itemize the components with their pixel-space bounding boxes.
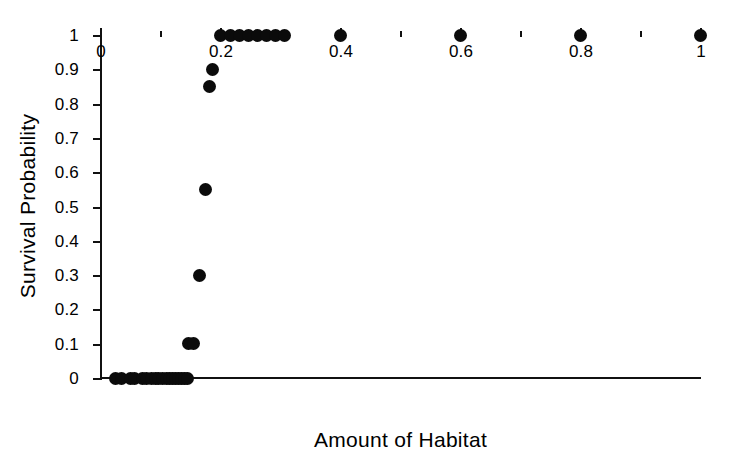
data-point [206, 63, 219, 76]
y-tick-mark: 0.4 [93, 241, 102, 243]
y-tick-mark: 0 [93, 378, 102, 380]
y-tick-label: 0.8 [55, 95, 79, 115]
y-tick-label: 0.6 [55, 163, 79, 183]
y-tick-label: 0 [69, 369, 79, 389]
y-tick-label: 0.4 [55, 232, 79, 252]
data-point [193, 269, 206, 282]
x-minor-tick-mark [640, 31, 642, 37]
y-tick-mark: 0.8 [93, 104, 102, 106]
y-tick-label: 0.1 [55, 335, 79, 355]
y-tick-mark: 0.2 [93, 309, 102, 311]
x-tick-label: 0.2 [209, 42, 233, 62]
plot-area: 00.10.20.30.40.50.60.70.80.91 00.20.40.6… [100, 35, 700, 378]
x-tick-mark: 0 [100, 28, 102, 37]
x-tick-label: 0.4 [329, 42, 353, 62]
y-tick-label: 1 [69, 26, 79, 46]
y-tick-mark: 0.6 [93, 172, 102, 174]
survival-probability-scatter-figure: 00.10.20.30.40.50.60.70.80.91 00.20.40.6… [0, 0, 737, 473]
y-tick-mark: 0.5 [93, 207, 102, 209]
data-point [454, 29, 467, 42]
data-point [334, 29, 347, 42]
data-point [694, 29, 707, 42]
x-tick-label: 0.6 [449, 42, 473, 62]
y-tick-mark: 0.3 [93, 275, 102, 277]
y-tick-mark: 0.9 [93, 69, 102, 71]
data-point [203, 80, 216, 93]
x-minor-tick-mark [520, 31, 522, 37]
data-point [278, 29, 291, 42]
x-tick-label: 0 [96, 42, 106, 62]
x-minor-tick-mark [400, 31, 402, 37]
y-tick-label: 0.5 [55, 198, 79, 218]
data-point [187, 337, 200, 350]
y-tick-label: 0.7 [55, 129, 79, 149]
data-point [181, 372, 194, 385]
x-tick-label: 1 [696, 42, 706, 62]
y-tick-mark: 0.7 [93, 138, 102, 140]
x-axis-title: Amount of Habitat [100, 428, 701, 452]
y-tick-label: 0.9 [55, 60, 79, 80]
data-point [574, 29, 587, 42]
y-axis-title: Survival Probability [16, 35, 46, 378]
y-tick-mark: 0.1 [93, 344, 102, 346]
data-point [199, 183, 212, 196]
x-minor-tick-mark [160, 31, 162, 37]
y-tick-label: 0.2 [55, 300, 79, 320]
y-tick-label: 0.3 [55, 266, 79, 286]
x-tick-label: 0.8 [569, 42, 593, 62]
